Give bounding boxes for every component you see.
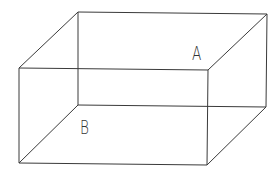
edge-top-left <box>19 12 78 68</box>
box-wireframe <box>0 0 280 174</box>
point-label-a: A <box>192 44 201 63</box>
edge-top-right <box>208 14 267 70</box>
back-face <box>78 12 267 107</box>
point-label-b: B <box>80 118 89 137</box>
edge-bottom-left <box>19 105 78 163</box>
front-face <box>19 68 208 165</box>
edge-bottom-right <box>207 107 266 165</box>
box-diagram: A B <box>0 0 280 174</box>
